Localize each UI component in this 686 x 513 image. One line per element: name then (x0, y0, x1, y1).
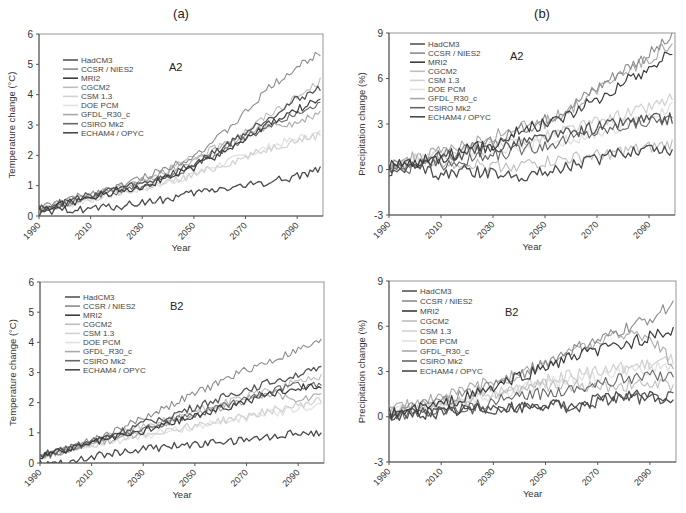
legend-label: GFDL_R30_c (83, 347, 132, 356)
y-tick-label: 0 (27, 211, 33, 222)
legend-label: CGCM2 (83, 320, 112, 329)
legend-label: HadCM3 (428, 40, 460, 49)
legend-label: MRI2 (420, 307, 440, 316)
legend-label: ECHAM4 / OPYC (420, 367, 483, 376)
legend-label: CSM 1.3 (83, 329, 115, 338)
x-tick-label: 1990 (371, 219, 392, 240)
y-tick-label: 3 (377, 366, 383, 377)
legend-label: CSM 1.3 (81, 92, 113, 101)
legend-label: ECHAM4 / OPYC (83, 366, 146, 375)
panel-label: (b) (534, 6, 550, 21)
y-tick-label: 9 (377, 276, 383, 287)
x-axis-title: Year (172, 489, 191, 500)
legend-label: CGCM2 (81, 83, 110, 92)
y-tick-label: 2 (27, 150, 33, 161)
x-tick-label: 2050 (527, 219, 548, 240)
x-tick-label: 2050 (177, 467, 198, 488)
x-axis-title: Year (523, 488, 542, 499)
legend-label: MRI2 (81, 74, 101, 83)
y-tick-label: 9 (377, 28, 383, 39)
y-tick-label: 5 (27, 59, 33, 70)
y-tick-label: 6 (27, 29, 33, 40)
legend-label: HadCM3 (420, 287, 452, 296)
legend-label: CCSR / NIES2 (428, 49, 481, 58)
x-tick-label: 2050 (176, 220, 197, 241)
scenario-label: B2 (505, 306, 518, 318)
legend-label: CCSR / NIES2 (83, 302, 136, 311)
legend-label: GFDL_R30_c (420, 347, 469, 356)
y-tick-label: -3 (374, 210, 383, 221)
x-tick-label: 2010 (423, 219, 444, 240)
x-tick-label: 2010 (423, 466, 444, 487)
legend-label: DOE PCM (83, 338, 121, 347)
y-tick-label: 0 (377, 164, 383, 175)
scenario-label: A2 (510, 50, 523, 62)
legend-label: CSIRO Mk2 (428, 104, 471, 113)
y-tick-label: 0 (377, 411, 383, 422)
legend-label: ECHAM4 / OPYC (81, 129, 144, 138)
x-tick-label: 2030 (124, 220, 145, 241)
x-tick-label: 2090 (280, 467, 301, 488)
x-tick-label: 2070 (579, 219, 600, 240)
chart-panel-temp_A2: (a)0123456199020102030205020702090YearTe… (6, 6, 323, 253)
legend-label: CGCM2 (428, 67, 457, 76)
x-tick-label: 2010 (74, 467, 95, 488)
legend-label: CCSR / NIES2 (81, 65, 134, 74)
legend-label: CSM 1.3 (428, 76, 460, 85)
x-tick-label: 2070 (229, 467, 250, 488)
legend-label: DOE PCM (420, 337, 458, 346)
y-tick-label: 1 (28, 427, 34, 438)
legend-label: CSIRO Mk2 (81, 120, 124, 129)
panel-label: (a) (173, 6, 189, 21)
x-tick-label: 2030 (475, 219, 496, 240)
y-tick-label: 3 (28, 367, 34, 378)
scenario-label: B2 (170, 300, 183, 312)
x-tick-label: 2070 (228, 220, 249, 241)
x-axis-title: Year (171, 242, 190, 253)
x-tick-label: 1990 (371, 466, 392, 487)
y-axis-title: Precipitation change (%) (356, 72, 367, 176)
y-tick-label: -3 (374, 457, 383, 468)
legend-label: CSIRO Mk2 (83, 357, 126, 366)
chart-panel-precip_B2: -30369199020102030205020702090YearPrecip… (356, 276, 676, 500)
legend-label: GFDL_R30_c (81, 110, 130, 119)
legend-label: ECHAM4 / OPYC (428, 113, 491, 122)
scenario-label: A2 (169, 61, 182, 73)
y-axis-title: Temperature change (°C) (6, 72, 17, 179)
x-tick-label: 2090 (631, 219, 652, 240)
legend-label: CSIRO Mk2 (420, 357, 463, 366)
x-tick-label: 2010 (73, 220, 94, 241)
y-tick-label: 3 (27, 120, 33, 131)
x-tick-label: 2090 (279, 220, 300, 241)
y-tick-label: 3 (377, 119, 383, 130)
legend-label: DOE PCM (428, 85, 466, 94)
y-axis-title: Temperature change (°C) (7, 319, 18, 426)
figure-canvas: (a)0123456199020102030205020702090YearTe… (0, 0, 686, 513)
legend-label: GFDL_R30_c (428, 94, 477, 103)
x-tick-label: 2050 (528, 466, 549, 487)
y-axis-title: Precipitation change (%) (356, 320, 367, 424)
x-tick-label: 1990 (22, 467, 43, 488)
legend-label: CGCM2 (420, 317, 449, 326)
legend-label: HadCM3 (81, 56, 113, 65)
legend-label: MRI2 (428, 58, 448, 67)
y-tick-label: 6 (377, 73, 383, 84)
y-tick-label: 5 (28, 307, 34, 318)
y-tick-label: 0 (28, 458, 34, 469)
y-tick-label: 1 (27, 180, 33, 191)
legend-label: CCSR / NIES2 (420, 297, 473, 306)
legend-label: DOE PCM (81, 101, 119, 110)
x-tick-label: 2030 (125, 467, 146, 488)
x-tick-label: 2070 (580, 466, 601, 487)
chart-panel-precip_A2: (b)-30369199020102030205020702090YearPre… (356, 6, 675, 252)
y-tick-label: 2 (28, 397, 34, 408)
x-tick-label: 2030 (476, 466, 497, 487)
legend-label: MRI2 (83, 311, 103, 320)
chart-panel-temp_B2: 0123456199020102030205020702090YearTempe… (7, 277, 324, 501)
y-tick-label: 4 (27, 89, 33, 100)
legend-label: CSM 1.3 (420, 327, 452, 336)
y-tick-label: 4 (28, 337, 34, 348)
legend-label: HadCM3 (83, 293, 115, 302)
x-tick-label: 2090 (632, 466, 653, 487)
y-tick-label: 6 (28, 277, 34, 288)
